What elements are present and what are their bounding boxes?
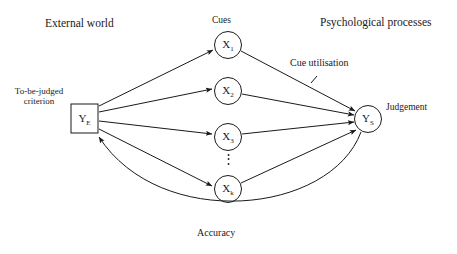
criterion-node-subscript: E	[86, 119, 90, 127]
criterion-label: To-be-judged criterion	[8, 86, 70, 106]
annotation-cue-utilisation: Cue utilisation	[290, 57, 349, 68]
cue-subscript-2: 2	[230, 91, 234, 99]
edge-cue-4-to-judgement	[241, 130, 356, 183]
criterion-node-label: YE	[71, 112, 98, 124]
judgement-node-label: YS	[354, 112, 382, 124]
header-cues: Cues	[212, 15, 231, 26]
cue-node-label-3: X3	[214, 130, 242, 142]
cue-ellipsis: ⋮	[214, 152, 242, 167]
lens-model-diagram: External world Cues Psychological proces…	[0, 0, 457, 254]
header-external-world: External world	[45, 17, 114, 30]
cue-utilisation-pointer	[311, 76, 317, 83]
header-psychological-processes: Psychological processes	[320, 16, 431, 29]
edge-cue-3-to-judgement	[242, 122, 354, 134]
edge-criterion-to-cue-2	[99, 89, 212, 112]
judgement-node-symbol: Y	[362, 112, 370, 124]
cue-node-label-2: X2	[214, 84, 242, 96]
edge-cue-2-to-judgement	[242, 94, 354, 115]
judgement-node-subscript: S	[370, 119, 374, 127]
cue-subscript-1: 1	[230, 45, 234, 53]
criterion-label-line1: To-be-judged	[15, 86, 63, 96]
cue-node-label-4: Xk	[214, 182, 242, 194]
edge-criterion-to-cue-1	[99, 50, 213, 106]
criterion-label-line2: criterion	[24, 96, 55, 106]
cue-subscript-3: 3	[230, 137, 234, 145]
cue-subscript-4: k	[230, 189, 234, 197]
edge-criterion-to-cue-3	[99, 121, 212, 134]
cue-node-label-1: X1	[214, 38, 242, 50]
annotation-accuracy: Accuracy	[197, 227, 235, 238]
judgement-label: Judgement	[386, 102, 427, 113]
